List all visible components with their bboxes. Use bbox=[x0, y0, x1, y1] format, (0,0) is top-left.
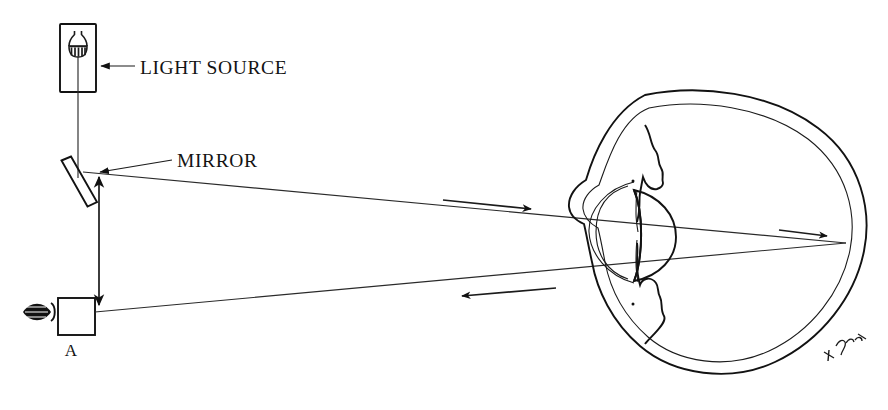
mirror-plate[interactable] bbox=[62, 157, 98, 207]
sclera-inner bbox=[583, 104, 852, 362]
iris-lower bbox=[637, 243, 665, 344]
iris-upper-dot bbox=[632, 180, 635, 183]
aperture-box[interactable] bbox=[58, 298, 95, 335]
incoming-ray bbox=[83, 172, 846, 243]
light-source-label: LIGHT SOURCE bbox=[140, 57, 287, 78]
outgoing-ray bbox=[95, 243, 846, 312]
diagram-canvas: LIGHT SOURCE MIRROR A bbox=[0, 0, 888, 410]
lamp-filament-icon bbox=[69, 31, 87, 57]
sclera-outer bbox=[569, 90, 867, 373]
mirror-pointer-arrow bbox=[100, 160, 172, 172]
artist-signature bbox=[824, 334, 866, 361]
observer-eye-icon bbox=[23, 303, 55, 321]
retina-focus-arrow bbox=[779, 230, 827, 236]
aperture-box-outline bbox=[58, 298, 95, 335]
incoming-ray-direction-arrow bbox=[443, 200, 531, 209]
optical-diagram-figure: LIGHT SOURCE MIRROR A bbox=[0, 0, 888, 410]
observer-point-label: A bbox=[65, 341, 78, 360]
outgoing-ray-direction-arrow bbox=[462, 288, 556, 296]
iris-lower-dot bbox=[632, 303, 635, 306]
mirror-label: MIRROR bbox=[177, 150, 258, 171]
eyeball-diagram bbox=[569, 90, 867, 373]
tilted-mirror-icon bbox=[62, 157, 98, 207]
iris-upper bbox=[637, 125, 663, 222]
